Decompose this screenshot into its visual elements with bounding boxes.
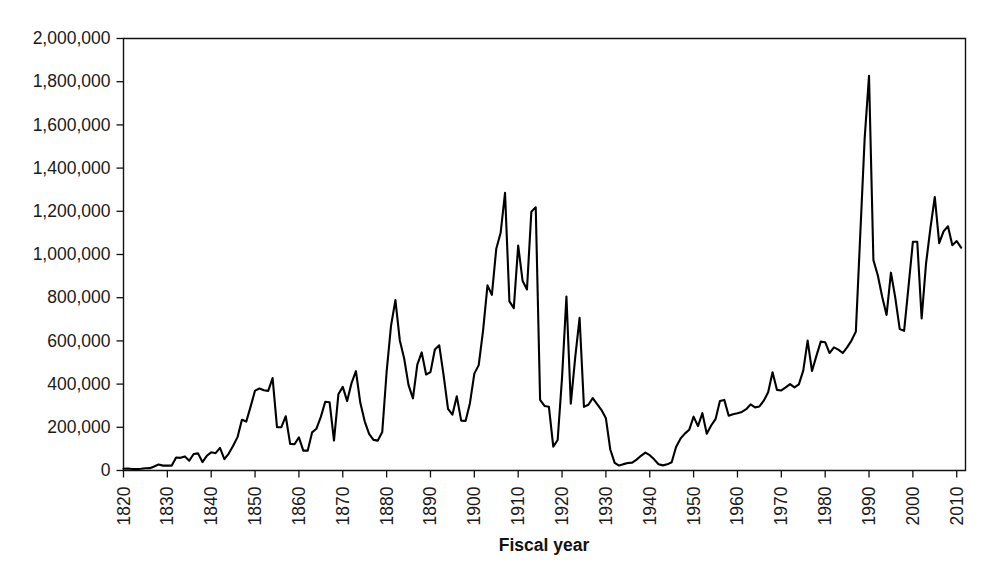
x-axis-ticks [124,471,957,478]
x-tick-label: 1990 [859,486,879,525]
y-tick-label: 400,000 [47,374,111,394]
y-tick-label: 1,400,000 [33,158,111,178]
y-tick-label: 1,000,000 [33,244,111,264]
y-tick-label: 1,200,000 [33,201,111,221]
x-tick-label: 1860 [289,486,309,525]
chart-canvas: 0200,000400,000600,000800,0001,000,0001,… [0,0,1005,583]
x-tick-label: 1880 [377,486,397,525]
x-tick-label: 1850 [245,486,265,525]
y-tick-label: 600,000 [47,331,111,351]
x-tick-label: 1840 [201,486,221,525]
x-tick-label: 2000 [903,486,923,525]
x-tick-label: 1920 [552,486,572,525]
x-axis-tick-labels: 1820183018401850186018701880189019001910… [114,486,967,525]
x-axis-title: Fiscal year [499,535,590,555]
x-tick-label: 1910 [508,486,528,525]
y-tick-label: 800,000 [47,287,111,307]
y-axis-tick-labels: 0200,000400,000600,000800,0001,000,0001,… [33,28,111,480]
x-tick-label: 1830 [157,486,177,525]
y-tick-label: 1,600,000 [33,115,111,135]
x-tick-label: 1940 [640,486,660,525]
x-tick-label: 1930 [596,486,616,525]
immigration-line-chart: 0200,000400,000600,000800,0001,000,0001,… [0,0,1005,583]
x-tick-label: 1900 [464,486,484,525]
y-tick-label: 200,000 [47,417,111,437]
y-tick-label: 1,800,000 [33,71,111,91]
y-tick-label: 2,000,000 [33,28,111,48]
x-tick-label: 1960 [727,486,747,525]
series-group [124,76,962,469]
x-tick-label: 1890 [420,486,440,525]
x-tick-label: 1950 [684,486,704,525]
x-tick-label: 2010 [947,486,967,525]
x-tick-label: 1820 [114,486,134,525]
x-tick-label: 1970 [771,486,791,525]
y-tick-label: 0 [101,460,111,480]
y-axis-ticks [117,39,124,471]
series-line-immigration [124,76,962,469]
x-tick-label: 1870 [333,486,353,525]
x-tick-label: 1980 [815,486,835,525]
